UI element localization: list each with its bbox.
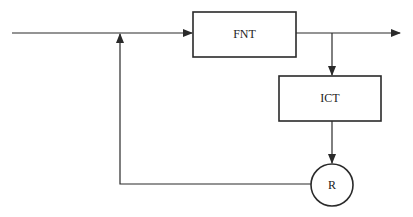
fnt-label: FNT [233, 27, 256, 41]
ict-block: ICT [279, 76, 381, 121]
block-diagram: FNT ICT R [0, 0, 413, 217]
fnt-block: FNT [193, 12, 296, 57]
r-label: R [328, 178, 336, 192]
r-node: R [311, 164, 353, 206]
ict-label: ICT [320, 91, 340, 105]
